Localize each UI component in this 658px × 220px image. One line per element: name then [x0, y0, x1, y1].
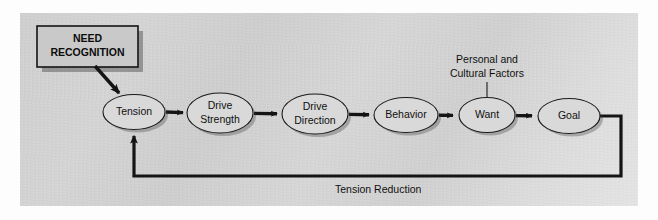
annotation-line2: Cultural Factors — [450, 67, 524, 79]
node-tension-label: Tension — [116, 105, 152, 117]
node-tension: Tension — [103, 95, 168, 133]
node-drive-strength: Drive Strength — [187, 93, 256, 136]
node-drive-direction: Drive Direction — [282, 94, 351, 137]
personal-cultural-factors-annotation: Personal and Cultural Factors — [450, 53, 524, 98]
node-behavior-label: Behavior — [385, 108, 427, 120]
node-want-label: Want — [475, 108, 499, 120]
need-recognition-line1: NEED — [73, 32, 103, 44]
annotation-line1: Personal and — [456, 53, 518, 65]
node-drive-strength-label-line1: Drive — [208, 99, 233, 111]
node-want: Want — [459, 98, 518, 136]
flow-diagram: NEED RECOGNITION Personal and Cultural F… — [0, 0, 658, 220]
node-drive-direction-label-line1: Drive — [303, 100, 328, 112]
arrow-tension-to-drive-strength — [166, 112, 183, 113]
node-drive-strength-label-line2: Strength — [200, 113, 240, 125]
node-behavior: Behavior — [374, 98, 441, 136]
feedback-loop-label: Tension Reduction — [335, 183, 422, 195]
figure-root: NEED RECOGNITION Personal and Cultural F… — [0, 0, 658, 220]
node-goal: Goal — [538, 99, 603, 137]
node-drive-direction-label-line2: Direction — [294, 114, 336, 126]
node-goal-label: Goal — [558, 109, 580, 121]
need-recognition-line2: RECOGNITION — [50, 46, 124, 58]
need-recognition-box: NEED RECOGNITION — [37, 26, 143, 72]
